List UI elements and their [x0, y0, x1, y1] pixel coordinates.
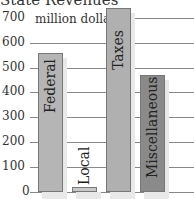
bar-shadow	[76, 192, 101, 199]
bar-label: Miscellaneous	[144, 77, 160, 178]
bar-label: Federal	[42, 59, 58, 113]
bar-local	[72, 187, 97, 192]
chart-title: State Revenues	[0, 0, 118, 9]
bar-label: Taxes	[110, 30, 126, 70]
y-tick-label: 200	[2, 135, 25, 147]
y-tick-label: 500	[2, 61, 25, 73]
y-tick-label: 700	[2, 11, 25, 23]
gridline	[132, 18, 194, 19]
y-tick-label: 400	[2, 85, 25, 97]
y-tick-label: 100	[2, 160, 25, 172]
bar-label: Local	[76, 147, 92, 185]
y-tick-label: 0	[22, 185, 30, 197]
y-tick-label: 600	[2, 36, 25, 48]
y-tick-label: 300	[2, 110, 25, 122]
